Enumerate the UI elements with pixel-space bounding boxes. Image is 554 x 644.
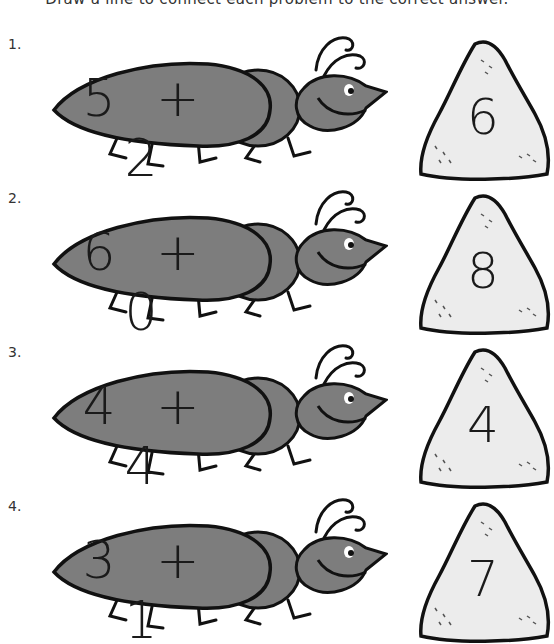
answer-number: 7 [448,550,518,608]
equation: 3 + 1 [62,530,232,644]
instruction-text: Draw a line to connect each problem to t… [0,0,554,8]
problem-number: 3. [8,344,21,360]
problem-number: 4. [8,498,21,514]
problem-row-3: 3. 4 + 4 4 [0,336,554,496]
answer-number: 6 [448,88,518,146]
equation: 5 + 2 [62,68,232,188]
equation: 4 + 4 [62,376,232,496]
equation: 6 + 0 [62,222,232,342]
problem-row-1: 1. 5 + 2 6 [0,28,554,188]
problem-number: 2. [8,190,21,206]
answer-number: 8 [448,242,518,300]
answer-number: 4 [448,396,518,454]
problem-number: 1. [8,36,21,52]
problem-row-2: 2. 6 + 0 8 [0,182,554,342]
problem-row-4: 4. 3 + 1 7 [0,490,554,644]
